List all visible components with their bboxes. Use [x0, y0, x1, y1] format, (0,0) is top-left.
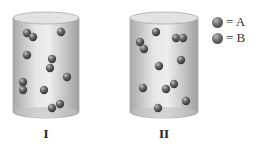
particle-icon	[48, 55, 56, 63]
particle-icon	[155, 62, 163, 70]
particle-icon	[19, 78, 27, 86]
particle-icon	[23, 51, 31, 59]
particle-icon	[56, 100, 64, 108]
legend-label-a: = A	[226, 14, 245, 30]
legend-item-a: = A	[212, 14, 245, 30]
legend-label-b: = B	[226, 30, 245, 46]
cylinder-bottom	[14, 107, 78, 117]
container-label-i: I	[26, 126, 66, 142]
cylinder-bottom	[131, 107, 197, 117]
particle-icon	[46, 64, 54, 72]
particle-a-icon	[212, 17, 223, 28]
particle-icon	[162, 85, 170, 93]
particle-icon	[19, 86, 27, 94]
particle-icon	[154, 104, 162, 112]
container-ii	[130, 12, 198, 118]
cylinder-top	[13, 12, 79, 24]
particle-icon	[182, 97, 190, 105]
container-i	[13, 12, 79, 118]
particle-icon	[177, 56, 185, 64]
particle-icon	[63, 73, 71, 81]
cylinder-top	[130, 12, 198, 24]
particle-icon	[139, 84, 147, 92]
particle-icon	[140, 45, 148, 53]
particle-icon	[48, 104, 56, 112]
particle-icon	[152, 28, 160, 36]
particle-icon	[170, 80, 178, 88]
particle-icon	[57, 28, 65, 36]
particle-b-icon	[212, 33, 223, 44]
legend-item-b: = B	[212, 30, 245, 46]
particle-icon	[29, 33, 37, 41]
particle-icon	[40, 86, 48, 94]
gas-mixture-figure: I II = A = B	[0, 0, 260, 150]
particle-icon	[179, 34, 187, 42]
container-label-ii: II	[144, 126, 184, 142]
